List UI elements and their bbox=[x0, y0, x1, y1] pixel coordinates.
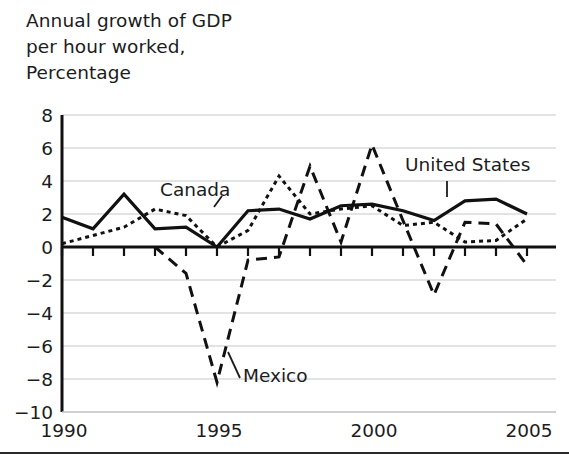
x-tick-label-1990: 1990 bbox=[40, 420, 87, 441]
y-tick-label-0: 0 bbox=[41, 237, 53, 258]
bottom-divider-rule bbox=[0, 452, 569, 454]
x-tick-label-1995: 1995 bbox=[195, 420, 242, 441]
y-tick-label--8: −8 bbox=[26, 369, 53, 390]
chart-figure: Annual growth of GDP per hour worked, Pe… bbox=[0, 0, 569, 470]
canada-label: Canada bbox=[160, 179, 230, 200]
y-tick-label-8: 8 bbox=[41, 105, 53, 126]
united-states-label: United States bbox=[405, 154, 530, 175]
line-chart-plot: 86420−2−4−6−8−101990199520002005CanadaMe… bbox=[0, 0, 569, 470]
y-tick-label-6: 6 bbox=[41, 138, 53, 159]
mexico-label-leader bbox=[228, 352, 240, 378]
y-tick-label--6: −6 bbox=[26, 336, 53, 357]
x-tick-label-2005: 2005 bbox=[505, 420, 552, 441]
y-tick-label--2: −2 bbox=[26, 270, 53, 291]
series-line-canada bbox=[62, 176, 527, 247]
y-tick-label-2: 2 bbox=[41, 204, 53, 225]
x-tick-label-2000: 2000 bbox=[350, 420, 397, 441]
y-tick-label--4: −4 bbox=[26, 303, 53, 324]
mexico-label: Mexico bbox=[243, 365, 308, 386]
y-tick-label-4: 4 bbox=[41, 171, 53, 192]
